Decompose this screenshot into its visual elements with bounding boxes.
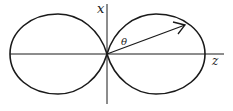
x-axis-label: x: [97, 2, 104, 15]
dipole-pattern-diagram: x z θ: [0, 0, 233, 111]
diagram-graphic: [0, 0, 233, 111]
radius-vector-arrow: [107, 25, 185, 54]
z-axis-label: z: [212, 55, 218, 67]
theta-angle-label: θ: [121, 37, 127, 47]
arrowhead-icon: [173, 22, 185, 34]
